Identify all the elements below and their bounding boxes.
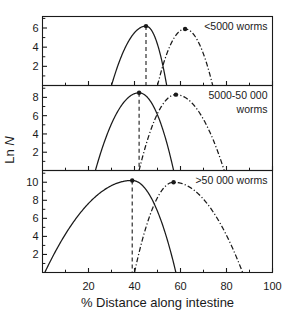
peak-marker: [144, 24, 148, 28]
y-tick-label: 10: [26, 176, 38, 188]
x-tick-label: 80: [220, 280, 232, 292]
peak-marker: [137, 91, 141, 95]
panel-label: <5000 worms: [204, 20, 267, 32]
panel-label: worms: [236, 103, 268, 115]
x-axis-title: % Distance along intestine: [81, 295, 234, 310]
panel-frame: [43, 171, 273, 273]
figure: 246<5000 worms24685000-50 000worms246810…: [0, 0, 291, 313]
panel-2: 24685000-50 000worms: [32, 86, 272, 171]
y-tick-label: 2: [32, 248, 38, 260]
curves: [45, 178, 243, 272]
y-tick-label: 8: [32, 91, 38, 103]
panel-1: 246<5000 worms: [32, 17, 272, 86]
panel-label: 5000-50 000: [209, 89, 268, 101]
curves: [112, 24, 213, 86]
peak-marker: [130, 178, 134, 182]
y-tick-label: 4: [32, 128, 38, 140]
solid-curve: [45, 180, 176, 272]
solid-curve: [112, 26, 167, 85]
y-tick-label: 6: [32, 22, 38, 34]
curves: [95, 91, 224, 171]
solid-curve: [95, 93, 173, 171]
y-tick-label: 2: [32, 60, 38, 72]
dash-dot-curve: [139, 95, 224, 171]
y-tick-label: 6: [32, 212, 38, 224]
peak-marker: [174, 92, 178, 96]
x-tick-label: 100: [263, 280, 281, 292]
peak-marker: [171, 180, 175, 184]
chart-canvas: 246<5000 worms24685000-50 000worms246810…: [0, 0, 291, 313]
x-tick-label: 40: [128, 280, 140, 292]
panel-3: 246810>50 000 worms: [26, 171, 272, 273]
y-axis-title-text: Ln N: [2, 136, 17, 164]
peak-marker: [183, 27, 187, 31]
y-tick-label: 6: [32, 110, 38, 122]
y-tick-label: 4: [32, 230, 38, 242]
y-tick-label: 2: [32, 146, 38, 158]
y-tick-label: 8: [32, 194, 38, 206]
x-tick-label: 60: [174, 280, 186, 292]
panel-label: >50 000 worms: [195, 174, 267, 186]
y-axis-title: Ln N: [2, 136, 17, 164]
x-tick-label: 20: [82, 280, 94, 292]
y-tick-label: 4: [32, 41, 38, 53]
